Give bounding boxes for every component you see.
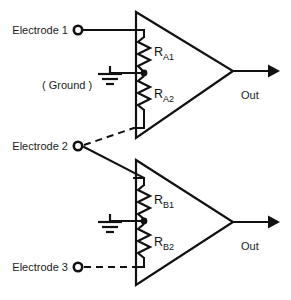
electrode2-connector-icon[interactable] <box>74 142 82 150</box>
resistor-b2-subscript: B2 <box>163 242 174 252</box>
ground-symbol-a <box>98 66 122 84</box>
svg-text:RB1: RB1 <box>154 193 174 210</box>
svg-text:RB2: RB2 <box>154 235 174 252</box>
ground-label: ( Ground ) <box>42 79 92 91</box>
amplifier-b-output-arrowhead <box>268 216 280 229</box>
resistor-b2-base: R <box>154 235 163 249</box>
amplifier-b-triangle <box>136 160 233 285</box>
electrode2-terminal[interactable] <box>74 142 82 150</box>
resistor-a2-subscript: A2 <box>163 94 174 104</box>
amplifier-a-output-label: Out <box>241 89 259 101</box>
resistor-a2-symbol <box>138 76 150 110</box>
resistor-a1-base: R <box>154 45 163 59</box>
circuit-diagram: Electrode 1 Electrode 2 Electrode 3 ( Gr… <box>0 0 291 300</box>
svg-text:RA1: RA1 <box>154 45 174 62</box>
resistor-b1-label: RB1 <box>154 193 174 210</box>
electrode1-label: Electrode 1 <box>12 24 68 36</box>
ground-symbol-b <box>98 214 122 232</box>
amplifier-a-triangle <box>136 12 233 138</box>
electrode1-terminal[interactable] <box>74 26 82 34</box>
amplifier-a <box>84 12 280 138</box>
electrode3-terminal[interactable] <box>74 263 82 271</box>
resistor-a2-base: R <box>154 87 163 101</box>
resistor-a1-subscript: A1 <box>163 52 174 62</box>
resistor-b1-base: R <box>154 193 163 207</box>
resistor-a2-label: RA2 <box>154 87 174 104</box>
resistor-a1-label: RA1 <box>154 45 174 62</box>
amplifier-a-output-arrowhead <box>268 65 280 78</box>
resistor-a1-symbol <box>138 37 150 72</box>
resistor-b2-label: RB2 <box>154 235 174 252</box>
electrode2-label: Electrode 2 <box>12 140 68 152</box>
resistor-b1-subscript: B1 <box>163 200 174 210</box>
electrode3-label: Electrode 3 <box>12 261 68 273</box>
resistor-b2-symbol <box>138 224 150 258</box>
svg-text:RA2: RA2 <box>154 87 174 104</box>
electrode3-connector-icon[interactable] <box>74 263 82 271</box>
circuit-canvas: Electrode 1 Electrode 2 Electrode 3 ( Gr… <box>0 0 291 300</box>
electrode2-to-amp-a-dashed-wire <box>84 128 134 145</box>
resistor-b1-symbol <box>138 185 150 219</box>
electrode1-connector-icon[interactable] <box>74 26 82 34</box>
amplifier-b-output-label: Out <box>241 240 259 252</box>
